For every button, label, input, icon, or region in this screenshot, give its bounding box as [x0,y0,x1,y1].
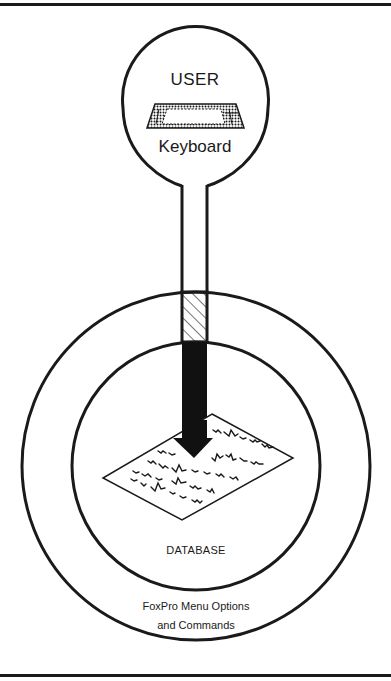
connector-stem [182,185,207,292]
connector-hatched-segment [182,292,207,342]
database-label: DATABASE [136,544,256,556]
user-node-title: USER [145,70,245,90]
keyboard-icon [147,104,244,128]
diagram-canvas [0,0,391,681]
menu-options-label: FoxPro Menu Options and Commands [116,597,276,635]
document-sheet-icon [103,414,293,520]
menu-options-label-line1: FoxPro Menu Options [116,597,276,616]
menu-options-label-line2: and Commands [116,616,276,635]
keyboard-label: Keyboard [135,137,255,157]
